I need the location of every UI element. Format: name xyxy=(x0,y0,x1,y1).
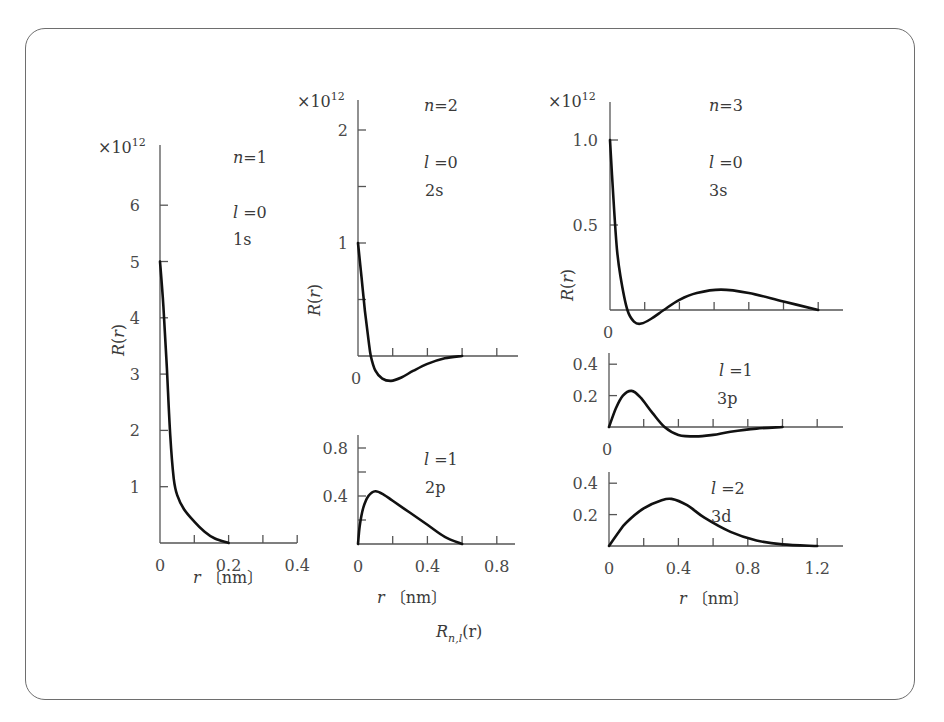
multiplier-label: ×1012 xyxy=(297,90,345,111)
x-axis-label: r 〔nm〕 xyxy=(193,568,263,587)
chart-3s: 0.51.00 xyxy=(573,102,843,342)
orbital-label: 3s xyxy=(709,181,727,200)
y-tick-label: 0.4 xyxy=(573,355,598,374)
multiplier-label: ×1012 xyxy=(548,90,596,111)
l-label: l =1 xyxy=(424,450,458,469)
l-label: l =0 xyxy=(424,153,458,172)
x-tick-label: 0 xyxy=(155,556,165,575)
y-tick-label: 1 xyxy=(130,478,140,497)
n-label: n=1 xyxy=(233,148,267,167)
x-tick-label: 0 xyxy=(604,559,614,578)
y-axis-label: R(r) xyxy=(305,284,324,317)
x-tick-label: 0 xyxy=(353,557,363,576)
l-label: l =0 xyxy=(709,153,743,172)
orbital-label: 2p xyxy=(425,478,445,497)
x-tick-label: 0.4 xyxy=(284,556,309,575)
y-axis-label: R(r) xyxy=(558,269,577,302)
y-tick-label: 6 xyxy=(130,196,140,215)
curve-2s xyxy=(358,243,462,381)
l-label: l =2 xyxy=(711,479,745,498)
curve-2p xyxy=(358,491,462,544)
chart-1s: 12345600.20.4 xyxy=(130,145,310,575)
chart-2p: 0.40.800.40.8 xyxy=(323,435,515,576)
figure-bottom-label: Rn,l(r) xyxy=(435,622,482,645)
orbital-label: 1s xyxy=(233,230,251,249)
y-tick-label: 0.8 xyxy=(323,439,348,458)
y-tick-label: 0.4 xyxy=(573,474,598,493)
y-axis-label: R(r) xyxy=(109,324,128,357)
zero-label: 0 xyxy=(603,323,613,342)
orbital-label: 2s xyxy=(425,181,443,200)
y-tick-label: 0.2 xyxy=(573,506,598,525)
x-tick-label: 1.2 xyxy=(804,559,829,578)
y-tick-label: 0.4 xyxy=(323,487,348,506)
n-label: n=3 xyxy=(709,96,743,115)
y-tick-label: 3 xyxy=(130,365,140,384)
y-tick-label: 4 xyxy=(130,309,140,328)
y-tick-label: 0.5 xyxy=(573,216,598,235)
chart-3p: 0.20.40 xyxy=(573,353,843,459)
y-tick-label: 2 xyxy=(338,121,348,140)
x-tick-label: 0.4 xyxy=(415,557,440,576)
x-tick-label: 0.4 xyxy=(666,559,691,578)
y-tick-label: 0.2 xyxy=(573,387,598,406)
radial-wavefunction-figure: 12345600.20.41200.40.800.40.80.51.000.20… xyxy=(0,0,944,722)
orbital-label: 3d xyxy=(711,507,731,526)
y-tick-label: 2 xyxy=(130,421,140,440)
x-axis-label: r 〔nm〕 xyxy=(679,589,749,608)
x-tick-label: 0.8 xyxy=(484,557,509,576)
zero-label: 0 xyxy=(602,440,612,459)
x-tick-label: 0.8 xyxy=(735,559,760,578)
x-axis-label: r 〔nm〕 xyxy=(377,588,447,607)
chart-2s: 120 xyxy=(338,100,518,388)
curve-3p xyxy=(609,391,783,437)
zero-label: 0 xyxy=(351,369,361,388)
n-label: n=2 xyxy=(424,96,458,115)
y-tick-label: 1 xyxy=(338,234,348,253)
y-tick-label: 1.0 xyxy=(573,131,598,150)
l-label: l =0 xyxy=(233,203,267,222)
chart-3d: 0.20.400.40.81.2 xyxy=(573,472,843,578)
curve-1s xyxy=(160,262,229,544)
y-tick-label: 5 xyxy=(130,253,140,272)
l-label: l =1 xyxy=(719,361,753,380)
orbital-label: 3p xyxy=(717,389,737,408)
multiplier-label: ×1012 xyxy=(98,136,146,157)
